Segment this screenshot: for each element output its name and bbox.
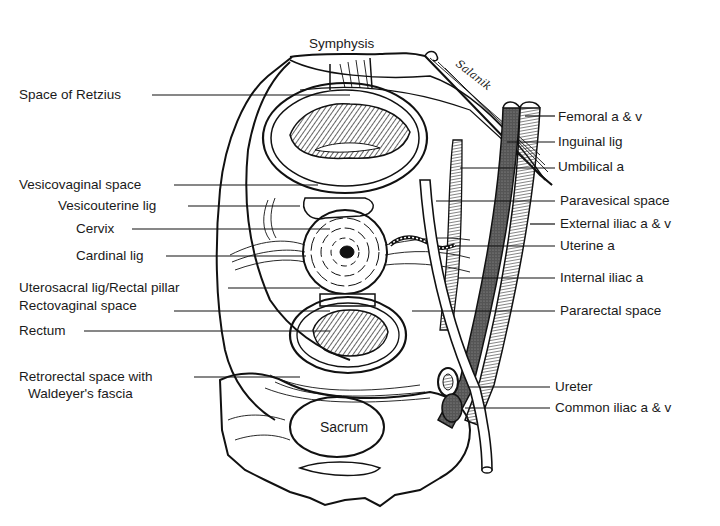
cervix	[303, 210, 387, 294]
vesicovaginal-space	[304, 198, 374, 219]
label-umbilical-a: Umbilical a	[558, 159, 624, 175]
label-cervix: Cervix	[76, 221, 114, 237]
label-femoral: Femoral a & v	[558, 109, 642, 125]
label-uterosacral-lig: Uterosacral lig/Rectal pillar	[19, 280, 180, 296]
bladder	[263, 83, 427, 193]
label-symphysis: Symphysis	[309, 36, 374, 52]
label-vesicovaginal-space: Vesicovaginal space	[19, 177, 141, 193]
label-rectovaginal-space: Rectovaginal space	[19, 298, 137, 314]
label-retrorectal-space: Retrorectal space with	[19, 369, 153, 385]
label-pararectal-space: Pararectal space	[560, 303, 661, 319]
label-uterine-a: Uterine a	[560, 238, 615, 254]
label-external-iliac: External iliac a & v	[560, 216, 671, 232]
label-waldeyers-fascia: Waldeyer's fascia	[28, 386, 133, 402]
label-common-iliac: Common iliac a & v	[555, 400, 671, 416]
label-vesicouterine-lig: Vesicouterine lig	[58, 198, 156, 214]
label-rectum: Rectum	[19, 323, 66, 339]
label-cardinal-lig: Cardinal lig	[76, 248, 144, 264]
label-internal-iliac: Internal iliac a	[560, 270, 643, 286]
artist-signature: Salanik	[453, 57, 494, 93]
label-ureter: Ureter	[555, 379, 593, 395]
label-space-of-retzius: Space of Retzius	[19, 87, 121, 103]
sacrum	[220, 373, 470, 506]
label-inguinal-lig: Inguinal lig	[558, 134, 623, 150]
label-paravesical-space: Paravesical space	[560, 193, 670, 209]
rectum	[290, 297, 406, 373]
label-sacrum: Sacrum	[320, 419, 368, 435]
